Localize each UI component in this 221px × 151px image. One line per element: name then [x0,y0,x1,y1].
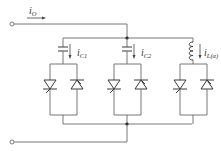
output-wire [14,124,127,142]
thyristor-leads [180,89,207,115]
thyristor-leads [50,64,77,80]
thyristor-reverse [71,80,83,89]
inductor-coil [189,42,193,60]
current-arrow-head [199,55,202,59]
top-terminal [10,22,14,26]
input-current-arrow [27,17,46,20]
current-arrow-head [133,55,136,59]
branch-3 [173,38,214,124]
circuit-diagram: iO iC1 iC2 iL(α) [0,0,221,151]
thyristor-reverse [135,80,147,89]
thyristor-forward [108,80,120,89]
inductor-current-label: iL(α) [204,47,218,60]
thyristor-gate [46,89,50,93]
input-current-label: iO [29,5,37,17]
thyristor-leads [114,64,141,80]
thyristor-forward [174,80,186,89]
thyristor-gate [110,89,114,93]
thyristor-gate [176,89,180,93]
thyristor-leads [114,89,141,115]
input-wire [14,24,127,38]
current-arrow-head [69,55,72,59]
thyristor-reverse [201,80,213,89]
cap1-current-label: iC1 [77,47,87,59]
bottom-terminal [10,140,14,144]
thyristor-leads [180,64,207,80]
thyristor-forward [44,80,56,89]
thyristor-leads [50,89,77,115]
cap2-current-label: iC2 [141,47,152,59]
